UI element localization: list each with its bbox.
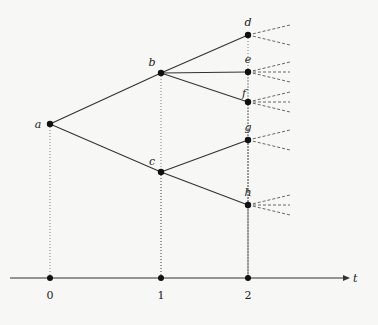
future-branch [248,92,290,102]
edge-b-f [161,73,248,102]
node-label-a: a [35,118,42,131]
future-branch [248,130,290,140]
future-branch [248,25,290,35]
time-axis: t [10,272,358,285]
axis-tick-dot [47,275,53,281]
node-label-f: f [241,87,248,100]
future-branch [248,72,290,82]
axis-tick-dot [245,275,251,281]
edge-a-b [50,73,161,124]
node-c [158,169,164,175]
node-d [245,32,251,38]
node-label-c: c [149,155,155,168]
edge-b-e [161,72,248,73]
node-e [245,69,251,75]
future-branches [248,25,290,215]
event-tree-diagram: t 012 abcdefgh [0,0,378,325]
future-branch [248,140,290,150]
edge-c-h [161,172,248,205]
axis-tick-label: 2 [245,289,252,302]
edge-b-d [161,35,248,73]
axis-label: t [353,272,358,285]
axis-tick-label: 0 [47,289,54,302]
future-branch [248,102,290,112]
future-branch [248,62,290,72]
node-a [47,121,53,127]
node-g [245,137,251,143]
node-h [245,202,251,208]
axis-arrow-icon [343,275,350,281]
axis-tick-label: 1 [158,289,165,302]
node-b [158,70,164,76]
edge-c-g [161,140,248,172]
tree-nodes: abcdefgh [35,16,252,208]
future-branch [248,35,290,45]
future-branch [248,195,290,205]
edge-a-c [50,124,161,172]
node-label-h: h [244,186,251,199]
node-label-g: g [244,121,251,134]
node-label-e: e [245,53,252,66]
future-branch [248,205,290,215]
node-label-b: b [148,56,155,69]
axis-ticks: 012 [47,275,252,302]
node-label-d: d [244,16,251,29]
axis-tick-dot [158,275,164,281]
